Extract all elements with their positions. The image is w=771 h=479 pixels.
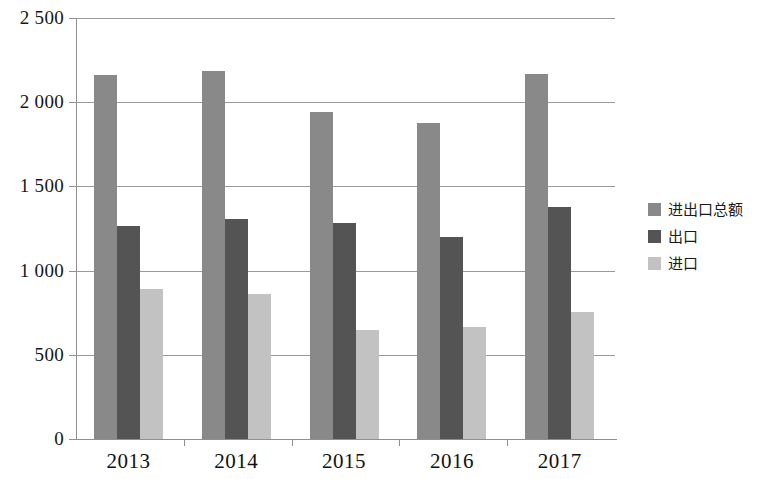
bar (356, 330, 379, 439)
y-axis-tick-label: 1 500 (2, 176, 64, 195)
y-axis-tick-label: 2 500 (2, 8, 64, 27)
x-axis-tick-mark (292, 439, 293, 446)
bar (202, 71, 225, 439)
plot-area (76, 18, 615, 439)
y-axis-tick-mark (69, 439, 76, 440)
legend-swatch-icon (648, 203, 661, 216)
bar (571, 312, 594, 439)
x-axis-tick-label: 2017 (515, 448, 605, 474)
bar (463, 327, 486, 439)
bar (117, 226, 140, 439)
bar (310, 112, 333, 439)
x-axis-tick-mark (507, 439, 508, 446)
y-axis-tick-label: 0 (2, 429, 64, 448)
y-axis-tick-mark (69, 18, 76, 19)
bar-chart: 05001 0001 5002 0002 500 201320142015201… (0, 0, 771, 479)
x-axis-tick-mark (184, 439, 185, 446)
bar (548, 207, 571, 439)
bar (417, 123, 440, 439)
x-axis-labels: 20132014201520162017 (0, 448, 771, 478)
legend-item: 出口 (648, 223, 771, 250)
legend-swatch-icon (648, 230, 661, 243)
y-axis-tick-label: 2 000 (2, 92, 64, 111)
legend-label: 进口 (668, 256, 698, 272)
legend-item: 进出口总额 (648, 196, 771, 223)
legend-label: 出口 (668, 229, 698, 245)
legend-swatch-icon (648, 257, 661, 270)
y-axis-tick-mark (69, 355, 76, 356)
bar (225, 219, 248, 439)
y-axis-labels: 05001 0001 5002 0002 500 (0, 0, 64, 479)
chart-legend: 进出口总额出口进口 (648, 196, 771, 277)
y-axis-tick-label: 500 (2, 345, 64, 364)
bar (248, 294, 271, 439)
legend-item: 进口 (648, 250, 771, 277)
y-axis-tick-mark (69, 186, 76, 187)
bar (140, 289, 163, 439)
x-axis-line (69, 439, 617, 440)
y-axis-tick-mark (69, 271, 76, 272)
y-axis-tick-mark (69, 102, 76, 103)
x-axis-tick-label: 2013 (84, 448, 174, 474)
x-axis-tick-label: 2014 (191, 448, 281, 474)
x-axis-tick-label: 2015 (299, 448, 389, 474)
bar (94, 75, 117, 439)
y-axis-tick-label: 1 000 (2, 261, 64, 280)
x-axis-tick-label: 2016 (407, 448, 497, 474)
x-axis-tick-mark (399, 439, 400, 446)
bar (333, 223, 356, 439)
bars-layer (76, 18, 615, 439)
legend-label: 进出口总额 (668, 202, 743, 218)
bar (440, 237, 463, 439)
bar (525, 74, 548, 439)
